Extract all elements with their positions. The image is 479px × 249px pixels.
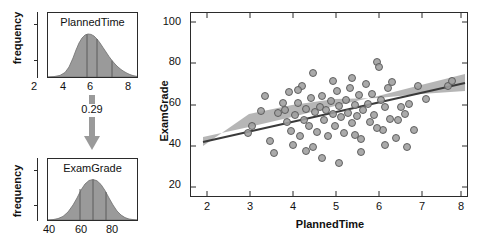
top-density-xtick-0: 2	[24, 80, 44, 92]
scatter-xtick-4: 4	[281, 200, 305, 212]
top-density-xtick-3: 8	[118, 80, 138, 92]
left-path-panel: frequency PlannedTime 2 4 6 8 0.29	[0, 0, 170, 249]
scatter-x-axis-label: PlannedTime	[180, 218, 479, 230]
bottom-density-axis-spine	[37, 158, 38, 221]
scatter-points	[245, 59, 456, 167]
correlation-value: 0.29	[62, 103, 122, 115]
scatter-ytick-100: 100	[155, 15, 181, 27]
bottom-density-y-label: frequency	[11, 163, 23, 219]
scatter-ytick-60: 60	[155, 96, 181, 108]
top-density-axis-spine	[37, 12, 38, 78]
planned-time-title: PlannedTime	[48, 16, 137, 28]
bottom-density-axis-tick-lower	[34, 205, 37, 206]
scatter-ytick-40: 40	[155, 137, 181, 149]
exam-grade-title: ExamGrade	[48, 162, 137, 174]
bottom-density-xtick-0: 40	[39, 223, 59, 235]
top-density-xtick-1: 4	[53, 80, 73, 92]
top-density-y-label: frequency	[11, 10, 23, 66]
planned-time-density-box: PlannedTime	[47, 12, 138, 78]
scatter-xtick-8: 8	[449, 200, 473, 212]
bottom-density-axis-tick-upper	[34, 170, 37, 171]
top-density-axis-tick-upper	[34, 24, 37, 25]
scatter-xtick-7: 7	[410, 200, 434, 212]
figure-root: frequency PlannedTime 2 4 6 8 0.29	[0, 0, 479, 249]
top-density-axis-tick-lower	[34, 60, 37, 61]
scatter-canvas	[191, 13, 467, 196]
exam-grade-density-box: ExamGrade	[47, 158, 138, 221]
scatter-ytick-80: 80	[155, 55, 181, 67]
scatter-xtick-3: 3	[238, 200, 262, 212]
scatter-xtick-5: 5	[324, 200, 348, 212]
top-density-xtick-2: 6	[80, 80, 100, 92]
bottom-density-xtick-2: 80	[102, 223, 122, 235]
scatter-ytick-20: 20	[155, 178, 181, 190]
scatter-xtick-2: 2	[195, 200, 219, 212]
bottom-density-xtick-1: 60	[71, 223, 91, 235]
scatter-xtick-6: 6	[367, 200, 391, 212]
scatter-plot[interactable]	[190, 12, 468, 197]
